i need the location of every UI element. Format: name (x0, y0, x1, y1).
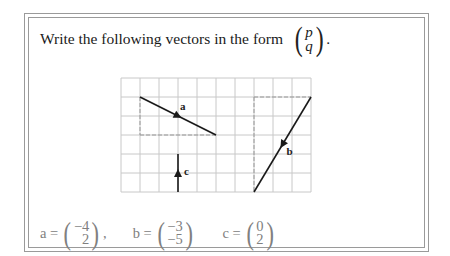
right-paren: ) (266, 218, 273, 248)
answer-a-entries: −4 2 (73, 220, 90, 246)
answer-a-label: a = (40, 225, 58, 242)
answer-a-separator: , (103, 225, 107, 242)
right-paren: ) (185, 218, 192, 248)
answer-a: a = ( −4 2 ) , (40, 218, 107, 248)
answer-b-entries: −3 −5 (166, 220, 183, 246)
answer-b: b = ( −3 −5 ) (133, 218, 195, 248)
answers-row: a = ( −4 2 ) , b = ( −3 −5 ) c = ( 0 2 ) (40, 218, 275, 248)
vector-arrows: abc (140, 97, 311, 192)
answer-c: c = ( 0 2 ) (222, 218, 275, 248)
vector-c-label: c (184, 165, 189, 177)
left-paren: ( (157, 218, 164, 248)
answer-c-entries: 0 2 (255, 220, 264, 246)
answer-c-label: c = (222, 225, 240, 242)
answer-a-bottom: 2 (82, 233, 89, 246)
answer-c-bottom: 2 (256, 233, 263, 246)
vector-a-label: a (180, 100, 186, 112)
answer-b-label: b = (133, 225, 152, 242)
left-paren: ( (64, 218, 71, 248)
right-paren: ) (92, 218, 99, 248)
vector-b-label: b (287, 145, 293, 157)
answer-b-bottom: −5 (167, 233, 182, 246)
left-paren: ( (246, 218, 253, 248)
